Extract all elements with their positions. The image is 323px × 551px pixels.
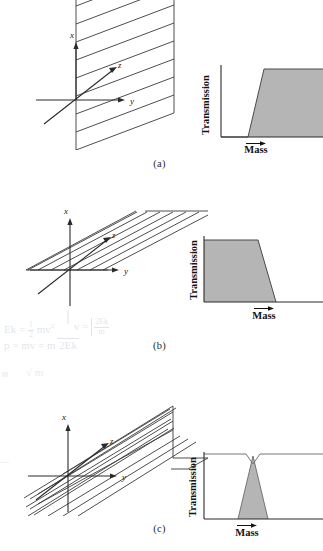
panel-c-axis-label-z: z: [109, 436, 114, 446]
panel-a-ylabel: Transmission: [200, 75, 211, 135]
panel-a-axis-label-x: x: [69, 30, 74, 40]
panel-c: x y z Transmission Mass (c): [0, 370, 323, 551]
panel-a-3d-diagram: x y z: [8, 0, 198, 150]
panel-b-chart-area: [204, 240, 276, 302]
panel-c-axis-label-y: y: [121, 472, 126, 482]
panel-b-chart: Transmission Mass: [186, 230, 323, 330]
panel-b-axis-label-x: x: [63, 206, 68, 216]
panel-c-ylabel: Transmission: [187, 457, 198, 517]
panel-a-chart-area: [221, 69, 323, 137]
panel-a-xlabel: Mass: [244, 144, 267, 153]
panel-c-axis-label-x: x: [61, 412, 66, 422]
panel-b-label: (b): [0, 340, 321, 351]
panel-b-axis-label-y: y: [123, 266, 128, 276]
stray-pen-mark-top: [67, 310, 69, 324]
panel-b: x y z Transmission Mass (b): [0, 188, 323, 373]
figure-mass-filter-transmission: x y z Transmission Mass (a): [0, 0, 323, 551]
panel-c-label: (c): [0, 523, 321, 534]
stray-pen-mark-corner: [2, 372, 8, 377]
panel-a-axis-label-z: z: [117, 60, 122, 70]
panel-a-label: (a): [0, 158, 321, 169]
panel-a-axis-label-y: y: [129, 96, 134, 106]
panel-a: x y z Transmission Mass (a): [0, 0, 323, 190]
panel-b-xlabel: Mass: [252, 310, 275, 321]
panel-b-3d-diagram: x y z: [8, 196, 208, 326]
panel-c-chart-line: [204, 454, 323, 464]
panel-b-ylabel: Transmission: [188, 240, 199, 300]
panel-b-axis-label-z: z: [111, 230, 116, 240]
stray-pen-mark-left: [0, 462, 9, 463]
panel-a-chart: Transmission Mass: [196, 55, 323, 153]
panel-c-chart-area: [238, 456, 268, 519]
